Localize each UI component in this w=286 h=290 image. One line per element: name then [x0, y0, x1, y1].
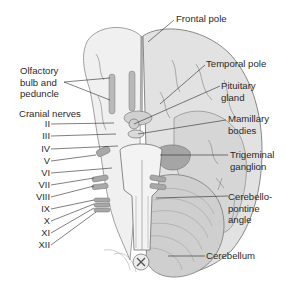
- mamillary-shape: [128, 130, 144, 138]
- olfactory-tract-left: [109, 74, 115, 114]
- label-nerve-x: X: [32, 215, 50, 226]
- label-nerve-vii: VII: [32, 179, 50, 190]
- label-nerve-iii: III: [32, 130, 50, 141]
- label-nerve-xii: XII: [32, 239, 50, 250]
- label-cerebellopontine-angle: Cerebello- pontine angle: [228, 191, 272, 226]
- label-frontal-pole: Frontal pole: [176, 13, 227, 25]
- label-nerve-ii: II: [32, 118, 50, 129]
- brain-ventral-diagram: Frontal pole Temporal pole Pituitary gla…: [0, 0, 286, 290]
- label-trigeminal-ganglion: Trigeminal ganglion: [230, 149, 274, 172]
- label-nerve-xi: XI: [32, 227, 50, 238]
- label-nerve-iv: IV: [32, 143, 50, 154]
- label-olfactory-bulb: Olfactory bulb and peduncle: [20, 65, 59, 100]
- label-nerve-v: V: [32, 155, 50, 166]
- left-hemisphere: [84, 27, 141, 260]
- label-temporal-pole: Temporal pole: [206, 58, 266, 70]
- label-nerve-ix: IX: [32, 203, 50, 214]
- label-pituitary-gland: Pituitary gland: [221, 80, 256, 103]
- label-nerve-viii: VIII: [32, 191, 50, 202]
- label-nerve-vi: VI: [32, 167, 50, 178]
- label-mamillary-bodies: Mamillary bodies: [228, 113, 269, 136]
- label-cerebellum: Cerebellum: [206, 250, 255, 262]
- olfactory-tract-right: [129, 71, 135, 111]
